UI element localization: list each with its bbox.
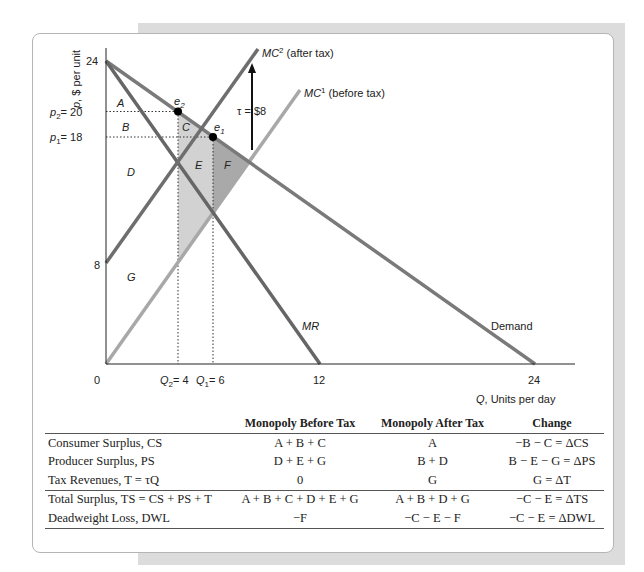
area-d-label: D [127,166,135,178]
e2-label: e2 [174,95,185,110]
row-label: Deadweight Loss, DWL [45,509,235,528]
monopoly-tax-chart: p, $ per unit 24 p2= 20 p1= 18 8 0 Q2= 4… [0,0,644,410]
table-row: Deadweight Loss, DWL −F −C − E − F −C − … [45,509,604,528]
e1-label: e1 [214,121,225,136]
table-row: Tax Revenues, T = τQ 0 G G = ΔT [45,471,604,490]
cell-after: A [365,434,500,453]
mc2-label: MC2 (after tax) [262,46,334,59]
x-tick-q1: Q1= 6 [196,374,225,389]
table-row: Total Surplus, TS = CS + PS + T A + B + … [45,490,604,509]
cell-before: A + B + C [235,434,365,453]
row-label: Tax Revenues, T = τQ [45,471,235,490]
cell-before: A + B + C + D + E + G [235,490,365,509]
area-b-label: B [122,121,129,133]
x-tick-12: 12 [313,374,325,386]
mc1-label: MC1 (before tax) [304,86,385,99]
cell-change: −C − E = ΔDWL [500,509,604,528]
cell-change: G = ΔT [500,471,604,490]
cell-after: −C − E − F [365,509,500,528]
area-g-label: G [127,271,136,283]
table-header-row: Monopoly Before Tax Monopoly After Tax C… [45,414,604,434]
cell-before: D + E + G [235,453,365,472]
x-tick-0: 0 [94,374,100,386]
header-after-tax: Monopoly After Tax [365,414,500,434]
header-before-tax: Monopoly Before Tax [235,414,365,434]
header-change: Change [500,414,604,434]
x-axis-label: Q, Units per day [476,393,556,405]
y-tick-24: 24 [86,55,98,67]
table-row: Producer Surplus, PS D + E + G B + D B −… [45,453,604,472]
y-tick-p1: p1= 18 [49,131,82,146]
row-label: Total Surplus, TS = CS + PS + T [45,490,235,509]
area-a-label: A [116,97,124,109]
y-tick-8: 8 [94,259,100,271]
cell-before: 0 [235,471,365,490]
cell-change: −C − E = ΔTS [500,490,604,509]
tax-label: τ = $8 [237,105,266,117]
demand-label: Demand [491,320,533,332]
demand-curve [106,61,535,364]
row-label: Producer Surplus, PS [45,453,235,472]
cell-after: G [365,471,500,490]
point-e1 [209,133,217,141]
cell-change: B − E − G = ΔPS [500,453,604,472]
mr-label: MR [302,320,319,332]
surplus-table: Monopoly Before Tax Monopoly After Tax C… [45,414,604,529]
cell-before: −F [235,509,365,528]
table-row: Consumer Surplus, CS A + B + C A −B − C … [45,434,604,453]
header-blank [45,414,235,434]
cell-change: −B − C = ΔCS [500,434,604,453]
x-tick-24: 24 [528,374,540,386]
y-tick-p2: p2= 20 [49,106,82,121]
area-e-label: E [195,159,203,171]
x-tick-q2: Q2= 4 [160,374,189,389]
cell-after: B + D [365,453,500,472]
cell-after: A + B + D + G [365,490,500,509]
area-c-label: C [182,121,190,133]
row-label: Consumer Surplus, CS [45,434,235,453]
tax-arrow-head-icon [248,63,256,73]
y-axis-label: p, $ per unit [70,50,82,109]
